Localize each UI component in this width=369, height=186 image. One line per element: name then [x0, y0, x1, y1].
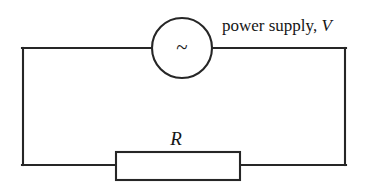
- power-supply-label-variable: V: [321, 16, 334, 35]
- circuit-schematic-canvas: ~ R power supply, V: [0, 0, 369, 186]
- resistor-symbol: [116, 152, 240, 180]
- resistor-label: R: [169, 128, 182, 149]
- circuit-diagram: ~ R power supply, V: [0, 0, 369, 186]
- ac-tilde-icon: ~: [176, 35, 187, 59]
- power-supply-label: power supply, V: [222, 16, 334, 35]
- power-supply-label-prefix: power supply,: [222, 16, 321, 35]
